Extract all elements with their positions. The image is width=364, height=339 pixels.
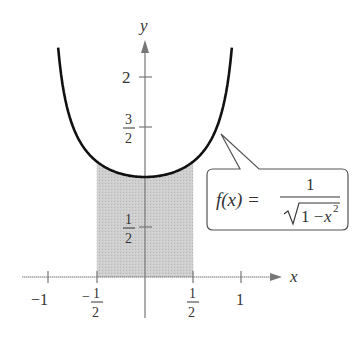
x-tick-label-half-den: 2	[188, 305, 195, 320]
graph-canvas: x y −1 − 1 2 1 2 1 2 3 2 1 2 f(x) = 1 1 …	[0, 0, 364, 339]
callout-radicand-x: x	[323, 207, 332, 226]
y-tick-label-half-num: 1	[125, 212, 132, 227]
y-tick-label-3half-den: 2	[125, 131, 132, 146]
callout-lhs: f(x) =	[216, 189, 260, 211]
x-tick-label-neg-half-num: 1	[93, 286, 100, 301]
callout-numerator: 1	[306, 175, 315, 194]
x-tick-label-neg-half-sign: −	[82, 289, 90, 304]
x-tick-label-half-num: 1	[189, 286, 196, 301]
function-graph: x y −1 − 1 2 1 2 1 2 3 2 1 2 f(x) = 1 1 …	[0, 0, 364, 339]
x-tick-label-neg1: −1	[31, 291, 48, 308]
callout-exponent: 2	[333, 202, 339, 214]
y-tick-label-2: 2	[122, 68, 131, 87]
y-tick-label-3half-num: 3	[125, 112, 132, 127]
function-callout: f(x) = 1 1 − x 2	[207, 134, 348, 230]
x-tick-label-neg-half-den: 2	[92, 305, 99, 320]
y-tick-label-half-den: 2	[125, 231, 132, 246]
callout-radicand: 1 −	[301, 207, 323, 226]
x-tick-label-1: 1	[236, 291, 244, 308]
y-axis-label: y	[138, 16, 148, 35]
x-axis-label: x	[289, 267, 298, 286]
